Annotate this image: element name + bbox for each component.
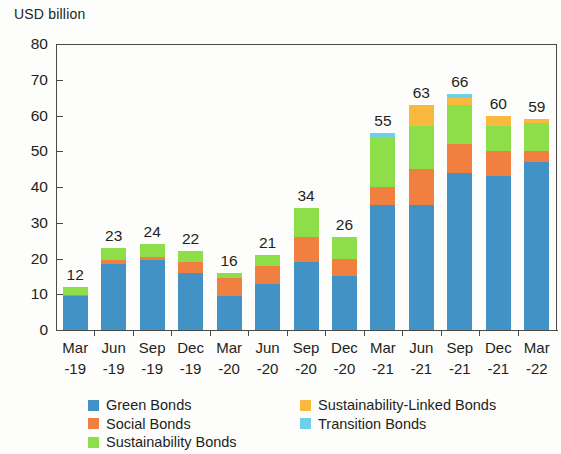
bar-segment xyxy=(101,264,126,330)
bar-segment xyxy=(178,251,203,262)
y-axis-tick-label: 0 xyxy=(4,321,48,339)
bar-segment xyxy=(140,260,165,330)
legend-item-label: Sustainability-Linked Bonds xyxy=(318,397,496,413)
bar xyxy=(332,237,357,330)
bar xyxy=(178,251,203,330)
bar xyxy=(447,94,472,330)
y-axis-tick-label: 40 xyxy=(4,178,48,196)
y-axis-tick-label: 10 xyxy=(4,285,48,303)
bar-value-label: 26 xyxy=(316,216,372,234)
bar-segment xyxy=(332,276,357,330)
bar-segment xyxy=(409,126,434,169)
bar-segment xyxy=(178,273,203,330)
x-axis-tick-mark xyxy=(133,330,134,336)
bar xyxy=(294,208,319,330)
legend-swatch-icon xyxy=(88,418,99,429)
x-axis-label-line: -22 xyxy=(509,359,561,380)
stacked-bar-chart: USD billion 01020304050607080 1223242216… xyxy=(0,0,561,454)
bar-segment xyxy=(255,284,280,330)
bar-segment xyxy=(447,98,472,105)
bar-segment xyxy=(217,296,242,330)
bar-segment xyxy=(294,262,319,330)
legend-swatch-icon xyxy=(300,400,311,411)
bar-segment xyxy=(140,244,165,257)
bar-value-label: 21 xyxy=(240,234,296,252)
bar-segment xyxy=(447,105,472,144)
bar-segment xyxy=(63,287,88,295)
bar-segment xyxy=(524,151,549,162)
y-axis-tick-label: 70 xyxy=(4,71,48,89)
legend-swatch-icon xyxy=(88,437,99,448)
y-axis-tick-label: 30 xyxy=(4,214,48,232)
legend-column-1: Green BondsSocial BondsSustainability Bo… xyxy=(88,396,237,452)
legend-item[interactable]: Green Bonds xyxy=(88,396,237,415)
bar-segment xyxy=(332,259,357,277)
bar-value-label: 22 xyxy=(163,230,219,248)
bar-segment xyxy=(178,262,203,273)
legend-item[interactable]: Sustainability-Linked Bonds xyxy=(300,396,496,415)
x-axis-line xyxy=(56,330,558,331)
legend-item-label: Sustainability Bonds xyxy=(106,434,237,450)
bar-value-label: 59 xyxy=(509,98,561,116)
bar-segment xyxy=(370,205,395,330)
bar-value-label: 34 xyxy=(278,187,334,205)
bar xyxy=(409,105,434,330)
bar xyxy=(524,119,549,330)
x-axis-tick-mark xyxy=(441,330,442,336)
x-axis-tick-mark xyxy=(94,330,95,336)
bar-value-label: 12 xyxy=(47,266,103,284)
bar-segment xyxy=(447,144,472,173)
bar-segment xyxy=(409,205,434,330)
y-axis-tick-label: 60 xyxy=(4,107,48,125)
legend-swatch-icon xyxy=(88,400,99,411)
bar-segment xyxy=(524,123,549,152)
x-axis-tick-mark xyxy=(248,330,249,336)
legend-item[interactable]: Sustainability Bonds xyxy=(88,433,237,452)
x-axis-tick-mark xyxy=(171,330,172,336)
x-axis-tick-mark xyxy=(287,330,288,336)
legend-item-label: Green Bonds xyxy=(106,397,191,413)
bar-segment xyxy=(332,237,357,258)
bar-segment xyxy=(409,105,434,126)
y-axis-tick-label: 50 xyxy=(4,142,48,160)
y-axis-title: USD billion xyxy=(14,6,85,22)
bar-segment xyxy=(486,116,511,127)
legend-item[interactable]: Social Bonds xyxy=(88,415,237,434)
bar-segment xyxy=(524,162,549,330)
legend-item[interactable]: Transition Bonds xyxy=(300,415,496,434)
bar-segment xyxy=(370,137,395,187)
x-axis-tick-mark xyxy=(479,330,480,336)
bar-segment xyxy=(409,169,434,205)
x-axis-tick-mark xyxy=(402,330,403,336)
bar-segment xyxy=(101,248,126,261)
bar-segment xyxy=(255,266,280,284)
plot-right-edge xyxy=(556,44,557,330)
bar xyxy=(255,255,280,330)
bar xyxy=(63,287,88,330)
bar xyxy=(370,133,395,330)
y-axis-tick-label: 80 xyxy=(4,35,48,53)
bar-segment xyxy=(63,296,88,330)
bar xyxy=(217,273,242,330)
bar-segment xyxy=(486,126,511,151)
x-axis-tick-mark xyxy=(325,330,326,336)
bar-value-label: 55 xyxy=(355,112,411,130)
bar-value-label: 16 xyxy=(201,252,257,270)
x-axis-label: Mar-22 xyxy=(509,338,561,379)
x-axis-tick-mark xyxy=(518,330,519,336)
bar-segment xyxy=(447,173,472,330)
bar-segment xyxy=(486,151,511,176)
legend-item-label: Transition Bonds xyxy=(318,416,426,432)
x-axis-label-line: Mar xyxy=(509,338,561,359)
bar xyxy=(486,116,511,330)
x-axis-tick-mark xyxy=(364,330,365,336)
legend-item-label: Social Bonds xyxy=(106,416,191,432)
legend-swatch-icon xyxy=(300,418,311,429)
bar-segment xyxy=(294,237,319,262)
bar-segment xyxy=(370,187,395,205)
bar-segment xyxy=(294,208,319,237)
bar-segment xyxy=(255,255,280,266)
bar-value-label: 66 xyxy=(432,73,488,91)
bar xyxy=(101,248,126,330)
bar-segment xyxy=(217,278,242,296)
